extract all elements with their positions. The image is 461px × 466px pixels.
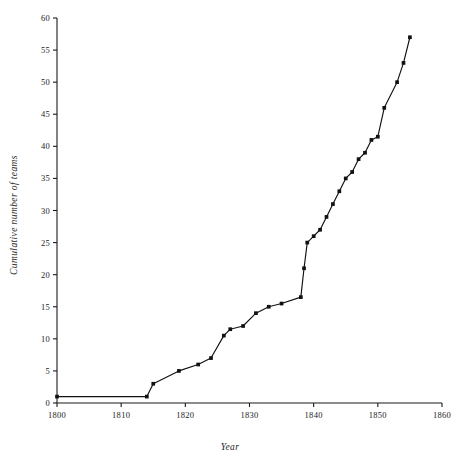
y-tick-label: 60 <box>41 13 50 23</box>
x-tick-label: 1820 <box>176 410 194 420</box>
data-point-marker <box>312 234 316 238</box>
y-tick-label: 35 <box>41 173 50 183</box>
data-point-marker <box>267 305 271 309</box>
data-point-marker <box>357 157 361 161</box>
data-point-marker <box>299 295 303 299</box>
data-point-marker <box>305 241 309 245</box>
y-tick-label: 25 <box>41 238 50 248</box>
data-point-marker <box>302 266 306 270</box>
data-point-marker <box>408 35 412 39</box>
x-tick-label: 1850 <box>369 410 387 420</box>
y-tick-label: 50 <box>41 77 50 87</box>
data-point-marker <box>228 327 232 331</box>
data-point-marker <box>382 106 386 110</box>
x-tick-label: 1810 <box>112 410 130 420</box>
y-tick-label: 20 <box>41 270 50 280</box>
x-axis: 1800181018201830184018501860 <box>48 403 451 420</box>
data-point-marker <box>331 202 335 206</box>
data-point-marker <box>363 151 367 155</box>
data-point-marker <box>325 215 329 219</box>
data-point-marker <box>196 363 200 367</box>
x-tick-label: 1860 <box>433 410 451 420</box>
y-tick-label: 40 <box>41 141 50 151</box>
y-axis: 051015202530354045505560 <box>41 13 57 408</box>
y-tick-label: 5 <box>45 366 50 376</box>
chart-figure: 051015202530354045505560 180018101820183… <box>0 0 461 466</box>
data-point-marker <box>370 138 374 142</box>
y-axis-title: Cumulative number of teams <box>9 155 19 275</box>
data-point-marker <box>145 395 149 399</box>
x-tick-label: 1800 <box>48 410 66 420</box>
data-point-marker <box>395 80 399 84</box>
y-tick-label: 10 <box>41 334 50 344</box>
data-point-marker <box>177 369 181 373</box>
data-point-marker <box>209 356 213 360</box>
y-tick-label: 30 <box>41 206 50 216</box>
x-tick-label: 1840 <box>305 410 323 420</box>
data-point-marker <box>222 334 226 338</box>
data-point-marker <box>344 177 348 181</box>
data-point-marker <box>376 135 380 139</box>
line-chart-canvas: 051015202530354045505560 180018101820183… <box>0 0 461 466</box>
y-tick-label: 15 <box>41 302 50 312</box>
data-point-marker <box>55 395 59 399</box>
data-point-marker <box>337 189 341 193</box>
data-point-marker <box>151 382 155 386</box>
series-line-path <box>57 37 410 396</box>
y-tick-label: 55 <box>41 45 50 55</box>
data-point-marker <box>350 170 354 174</box>
x-tick-label: 1830 <box>240 410 258 420</box>
data-point-marker <box>318 228 322 232</box>
data-point-marker <box>280 302 284 306</box>
x-axis-title: Year <box>221 442 240 452</box>
data-point-marker <box>402 61 406 65</box>
y-tick-label: 0 <box>45 398 50 408</box>
data-point-marker <box>254 311 258 315</box>
data-point-marker <box>241 324 245 328</box>
y-tick-label: 45 <box>41 109 50 119</box>
data-series-cumulative-teams <box>55 35 412 398</box>
